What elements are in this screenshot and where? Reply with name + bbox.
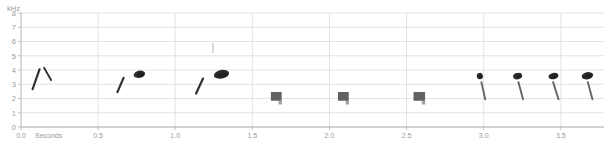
y-tick-label: 0: [12, 123, 16, 132]
energy-block-tail: [346, 101, 349, 105]
energy-blob-core: [585, 74, 592, 78]
y-tick-label: 2: [12, 94, 16, 103]
y-axis-unit-label: kHz: [7, 4, 20, 13]
energy-block: [414, 92, 426, 101]
energy-block: [338, 92, 349, 101]
x-tick-label: 2.5: [402, 132, 412, 139]
energy-block-tail: [422, 101, 425, 105]
x-tick-label: 3.0: [479, 132, 489, 139]
y-tick-label: 3: [12, 80, 16, 89]
x-axis-title: Seconds: [35, 132, 63, 139]
y-tick-label: 6: [12, 37, 16, 46]
x-tick-label: 1.0: [170, 132, 180, 139]
spectrogram-panel: 876543210 0.00.51.01.52.02.53.03.5 kHz S…: [0, 0, 608, 158]
x-tick-label: 1.5: [247, 132, 257, 139]
x-tick-label: 2.0: [325, 132, 335, 139]
y-tick-labels: 876543210: [12, 9, 16, 132]
y-tick-label: 7: [12, 23, 16, 32]
energy-block-tail: [279, 101, 282, 105]
energy-blob-core: [516, 75, 522, 79]
energy-blob-core: [552, 75, 558, 79]
energy-block: [271, 92, 282, 101]
x-tick-label: 0.5: [93, 132, 103, 139]
x-tick-label: 3.5: [556, 132, 566, 139]
y-tick-label: 4: [12, 66, 16, 75]
energy-blob-core: [479, 75, 483, 79]
x-tick-label: 0.0: [16, 132, 26, 139]
y-tick-label: 1: [12, 109, 16, 118]
spectrogram-chart: 876543210 0.00.51.01.52.02.53.03.5 kHz S…: [0, 0, 608, 158]
energy-blob-core: [137, 73, 144, 77]
y-tick-label: 5: [12, 52, 16, 61]
energy-blob-core: [219, 73, 228, 78]
